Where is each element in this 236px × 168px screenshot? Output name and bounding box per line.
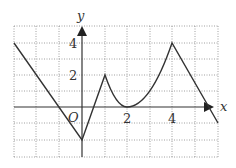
function-curve: [14, 43, 218, 140]
y-tick-2: 2: [69, 68, 77, 83]
x-axis: x: [14, 99, 228, 114]
x-tick-4: 4: [168, 111, 176, 126]
function-graph: x y O 2 4 2 4: [0, 0, 236, 168]
y-tick-4: 4: [69, 36, 77, 51]
x-axis-label: x: [220, 99, 228, 114]
y-axis-arrow-icon: [77, 26, 87, 36]
y-axis-label: y: [76, 8, 85, 23]
x-tick-2: 2: [123, 111, 131, 126]
grid: [14, 26, 218, 157]
